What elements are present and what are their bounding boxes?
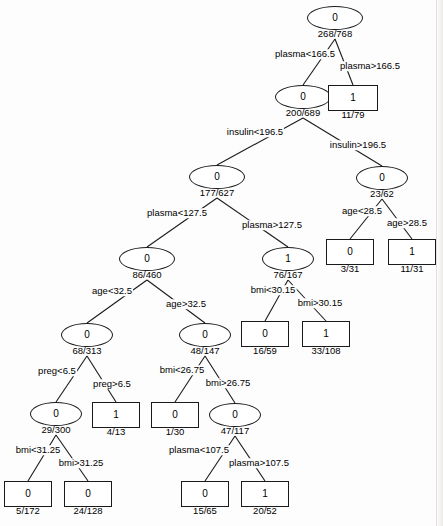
node-counts-label: 29/300	[41, 425, 70, 435]
edge-label: plasma<127.5	[146, 208, 208, 218]
node-class-label: 0	[84, 330, 90, 340]
node-class-label: 0	[214, 172, 220, 182]
node-counts-label: 11/79	[341, 110, 364, 120]
node-counts-label: 177/627	[200, 188, 234, 198]
node-counts-label: 1/30	[166, 427, 185, 437]
node-class-label: 0	[347, 247, 353, 257]
node-counts-label: 86/460	[132, 270, 161, 280]
tree-leaf-node: 1	[388, 239, 436, 265]
tree-leaf-node: 1	[302, 321, 350, 347]
tree-edge	[56, 356, 87, 402]
node-counts-label: 11/31	[400, 264, 423, 274]
node-counts-label: 33/108	[311, 346, 340, 356]
tree-split-node: 0	[275, 85, 331, 109]
tree-leaf-node: 1	[92, 402, 140, 428]
edge-label: preg<6.5	[37, 366, 77, 376]
node-class-label: 0	[262, 329, 268, 339]
tree-split-node: 0	[119, 247, 175, 271]
tree-edge	[147, 198, 217, 247]
edge-label: insulin>196.5	[329, 140, 387, 150]
edge-label: age>32.5	[165, 299, 207, 309]
node-class-label: 0	[25, 489, 31, 499]
tree-split-node: 0	[30, 402, 82, 426]
node-counts-label: 47/117	[221, 426, 249, 436]
node-counts-label: 76/167	[273, 270, 302, 280]
node-class-label: 0	[202, 489, 208, 499]
tree-leaf-node: 0	[181, 481, 229, 507]
node-class-label: 1	[409, 247, 415, 257]
node-counts-label: 4/13	[107, 427, 126, 437]
edge-label: bmi<30.15	[250, 285, 297, 295]
node-class-label: 1	[323, 329, 329, 339]
node-counts-label: 15/65	[193, 506, 217, 516]
node-class-label: 0	[332, 13, 338, 23]
tree-edge	[217, 118, 303, 165]
tree-split-node: 0	[209, 403, 261, 427]
node-class-label: 0	[172, 410, 178, 420]
node-counts-label: 23/62	[370, 189, 394, 199]
tree-split-node: 0	[179, 323, 231, 347]
edge-label: age<32.5	[91, 286, 133, 296]
edge-label: plasma>107.5	[228, 458, 290, 468]
tree-split-node: 0	[61, 323, 113, 347]
tree-leaf-node: 1	[241, 481, 289, 507]
tree-leaf-node: 0	[326, 239, 374, 265]
edge-label: bmi>30.15	[297, 298, 344, 308]
node-counts-label: 16/59	[253, 346, 277, 356]
tree-leaf-node: 0	[151, 402, 199, 428]
node-class-label: 1	[262, 489, 268, 499]
edge-label: bmi>26.75	[205, 378, 252, 388]
node-counts-label: 3/31	[341, 264, 360, 274]
edge-label: plasma>166.5	[339, 61, 401, 71]
edge-label: preg>6.5	[92, 379, 132, 389]
tree-edge	[28, 435, 56, 481]
tree-split-node: 0	[189, 165, 245, 189]
node-counts-label: 20/52	[253, 506, 277, 516]
node-counts-label: 48/147	[190, 346, 219, 356]
edge-label: bmi>31.25	[58, 458, 105, 468]
edge-label: plasma<166.5	[274, 49, 336, 59]
node-class-label: 1	[113, 410, 119, 420]
tree-edge	[175, 356, 205, 402]
tree-leaf-node: 0	[64, 481, 112, 507]
node-class-label: 0	[202, 330, 208, 340]
node-class-label: 0	[379, 173, 385, 183]
node-class-label: 0	[232, 410, 238, 420]
edge-label: plasma>127.5	[241, 220, 303, 230]
tree-leaf-node: 0	[4, 481, 52, 507]
node-counts-label: 200/689	[286, 108, 320, 118]
page-edge-shadow	[436, 0, 443, 526]
tree-leaf-node: 1	[328, 85, 378, 111]
tree-split-node: 0	[356, 166, 408, 190]
tree-edge	[303, 39, 335, 85]
decision-tree-figure: 0268/7680200/689111/790177/627023/62086/…	[0, 0, 443, 526]
edge-label: bmi<26.75	[159, 365, 206, 375]
tree-split-node: 1	[262, 247, 314, 271]
edge-label: bmi<31.25	[15, 445, 62, 455]
node-class-label: 0	[144, 254, 150, 264]
node-counts-label: 5/172	[16, 506, 40, 516]
edge-label: age<28.5	[341, 206, 383, 216]
node-counts-label: 68/313	[72, 346, 101, 356]
tree-leaf-node: 0	[241, 321, 289, 347]
node-class-label: 1	[350, 93, 356, 103]
node-class-label: 0	[300, 92, 306, 102]
node-class-label: 0	[85, 489, 91, 499]
node-counts-label: 268/768	[318, 29, 352, 39]
tree-split-node: 0	[307, 6, 363, 30]
edge-label: age>28.5	[386, 218, 428, 228]
node-class-label: 0	[53, 409, 59, 419]
edge-label: plasma<107.5	[168, 445, 230, 455]
edge-label: insulin<196.5	[226, 127, 284, 137]
node-counts-label: 24/128	[73, 506, 102, 516]
node-class-label: 1	[285, 254, 291, 264]
